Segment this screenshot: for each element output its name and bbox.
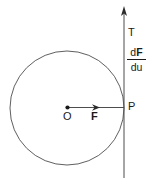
derivative-f-symbol: F <box>136 46 142 58</box>
vector-f-label: F <box>91 111 98 122</box>
derivative-denominator: du <box>131 61 143 73</box>
fraction-bar <box>127 59 146 60</box>
derivative-fraction: dF du <box>127 46 146 73</box>
tangent-label: T <box>128 27 135 38</box>
center-label: O <box>63 111 72 122</box>
center-point-dot <box>65 105 69 109</box>
point-p-label: P <box>128 101 135 112</box>
derivative-numerator: dF <box>130 46 142 58</box>
vector-derivative-figure: T O F P dF du <box>0 0 155 178</box>
